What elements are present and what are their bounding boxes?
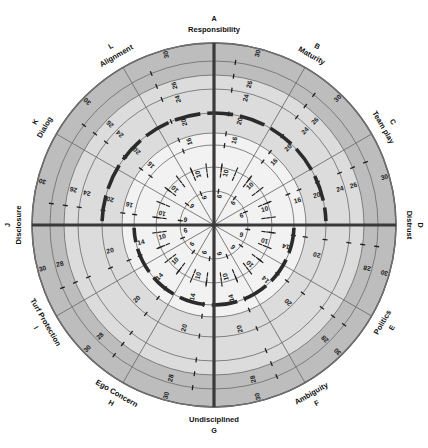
tick-dash-inner — [207, 168, 208, 172]
tick-dash — [194, 371, 195, 376]
tick-dash — [209, 256, 210, 261]
tick-dash — [346, 242, 351, 243]
tick-dash — [202, 314, 203, 319]
tick-dash-inner — [271, 233, 275, 234]
tick-dash — [77, 207, 82, 208]
radar-chart-svg: 6101620242630610162024263061016202426306… — [0, 0, 428, 448]
tick-dash-inner — [207, 277, 208, 281]
axis-label-G: Undisciplined — [189, 415, 239, 424]
tick-dash — [231, 88, 232, 93]
tick-dash-inner — [222, 282, 223, 286]
axis-label-K: Dialog — [35, 115, 55, 140]
axis-label-J: Disclosure — [14, 206, 23, 245]
tick-dash — [233, 74, 234, 79]
axis-label-D: Distrust — [405, 211, 414, 240]
tick-dash-inner — [207, 173, 208, 177]
axis-label-E: Politics — [372, 308, 393, 336]
axis-label-B: Maturity — [297, 44, 328, 67]
axis-letter-J: J — [3, 223, 12, 227]
axis-letter-G: G — [211, 426, 217, 435]
tick-dash — [196, 357, 197, 362]
axis-letter-C: C — [388, 117, 398, 126]
tick-dash-inner — [266, 218, 270, 219]
tick-dash — [132, 214, 137, 215]
axis-letter-K: K — [30, 117, 41, 127]
tick-dash — [224, 143, 225, 148]
axis-letter-I: I — [32, 325, 41, 331]
tick-dash-inner — [222, 163, 223, 167]
tick-dash — [178, 220, 183, 221]
tick-dash-inner — [206, 282, 207, 286]
tick-dash-inner — [261, 231, 265, 232]
tick-dash-inner — [271, 217, 275, 218]
tick-dash — [49, 203, 54, 204]
tick-dash — [235, 60, 236, 65]
tick-dash-inner — [266, 232, 270, 233]
tick-dash — [323, 239, 328, 240]
tick-dash — [374, 246, 379, 247]
axis-label-A: Responsibility — [188, 25, 241, 34]
tick-dash — [120, 213, 125, 214]
axis-letter-D: D — [416, 222, 425, 227]
tick-dash — [360, 244, 365, 245]
axis-letter-A: A — [211, 14, 216, 23]
tick-dash — [245, 229, 250, 230]
tick-dash-inner — [207, 272, 208, 276]
tick-dash-inner — [152, 217, 156, 218]
tick-dash — [218, 189, 219, 194]
axis-letter-L: L — [107, 41, 116, 51]
tick-dash — [63, 205, 68, 206]
axis-letter-E: E — [387, 323, 397, 332]
axis-letter-H: H — [107, 398, 116, 408]
tick-dash — [199, 334, 200, 339]
tick-dash-inner — [152, 233, 156, 234]
tick-dash-inner — [206, 163, 207, 167]
tick-dash — [192, 385, 193, 390]
radar-chart-figure: 6101620242630610162024263061016202426306… — [0, 0, 428, 448]
axis-letter-B: B — [313, 41, 322, 51]
tick-dash — [303, 237, 308, 238]
axis-letter-F: F — [313, 398, 322, 408]
tick-dash — [226, 131, 227, 136]
tick-dash-inner — [261, 218, 265, 219]
